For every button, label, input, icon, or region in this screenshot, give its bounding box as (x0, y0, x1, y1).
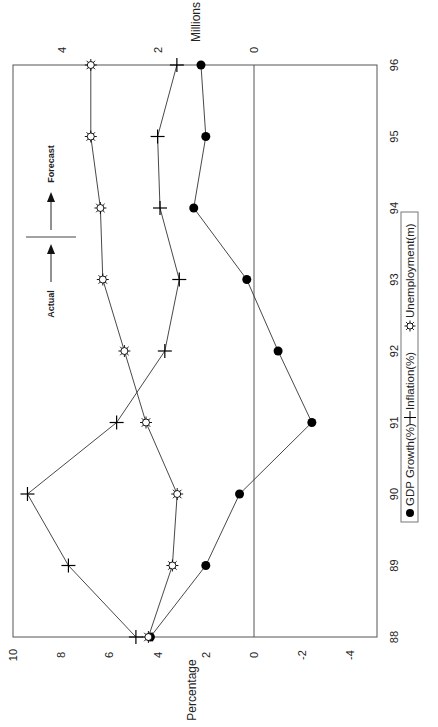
actual-forecast-annotation: ActualForecast (26, 145, 76, 318)
unemployment-marker (140, 417, 152, 429)
primary-axis-tick: 4 (152, 652, 164, 658)
secondary-axis-title: Millions (189, 2, 203, 42)
unemployment-marker (142, 631, 154, 643)
gdp-marker (307, 418, 316, 427)
legend-gdp-label: GDP Growth(%) (404, 423, 416, 506)
inflation-marker (153, 201, 167, 215)
y-axis-title: Percentage (185, 659, 199, 721)
forecast-label: Forecast (46, 145, 56, 183)
legend-unemployment-label: Unemployment(m) (404, 223, 416, 318)
unemployment-marker (97, 274, 109, 286)
inflation-marker (20, 487, 34, 501)
year-tick: 90 (388, 488, 400, 500)
year-tick: 91 (388, 416, 400, 428)
primary-axis-tick: 2 (200, 652, 212, 658)
inflation-marker (158, 344, 172, 358)
year-tick: 88 (388, 631, 400, 643)
plot-frame (13, 65, 377, 637)
primary-axis-tick: 0 (248, 652, 260, 658)
economic-indicators-chart: 1086420-2-4420888990919293949596 ActualF… (0, 0, 438, 727)
year-tick: 93 (388, 273, 400, 285)
secondary-axis-tick: 0 (248, 47, 260, 53)
unemployment-marker (166, 560, 178, 572)
series-layer (20, 58, 316, 644)
unemployment-marker (94, 202, 106, 214)
year-tick: 94 (388, 202, 400, 214)
gdp-marker (274, 347, 283, 356)
legend-inflation-label: Inflation(%) (404, 352, 416, 410)
legend: GDP Growth(%)Inflation(%)Unemployment(m) (401, 212, 418, 522)
legend-gdp-marker-icon (406, 509, 414, 517)
gdp-marker (189, 204, 198, 213)
unemployment-marker (85, 59, 97, 71)
secondary-axis-tick: 4 (56, 47, 68, 53)
year-tick: 92 (388, 345, 400, 357)
primary-axis-tick: -2 (296, 650, 308, 660)
year-tick: 96 (388, 59, 400, 71)
gdp-marker (235, 490, 244, 499)
primary-axis-tick: 8 (55, 652, 67, 658)
inflation-marker (110, 416, 124, 430)
forecast-arrow-head-icon (47, 192, 55, 202)
gdp-marker (201, 561, 210, 570)
primary-axis-tick: -4 (344, 650, 356, 660)
secondary-axis-tick: 2 (152, 47, 164, 53)
inflation-marker (170, 58, 184, 72)
plot-border (13, 65, 377, 637)
primary-axis-tick: 10 (7, 649, 19, 661)
series-line (150, 65, 311, 637)
unemployment-marker (118, 345, 130, 357)
actual-label: Actual (46, 290, 56, 318)
gdp-marker (201, 132, 210, 141)
gdp-marker (196, 61, 205, 70)
unemployment-marker (171, 488, 183, 500)
primary-axis-tick: 6 (103, 652, 115, 658)
year-tick: 95 (388, 130, 400, 142)
unemployment-marker (85, 131, 97, 143)
year-tick: 89 (388, 559, 400, 571)
legend-unemployment-marker-icon (405, 321, 416, 332)
inflation-marker (151, 130, 165, 144)
inflation-marker (172, 273, 186, 287)
actual-arrow-head-icon (47, 244, 55, 254)
legend-content: GDP Growth(%)Inflation(%)Unemployment(m) (404, 223, 416, 517)
gdp-marker (242, 275, 251, 284)
